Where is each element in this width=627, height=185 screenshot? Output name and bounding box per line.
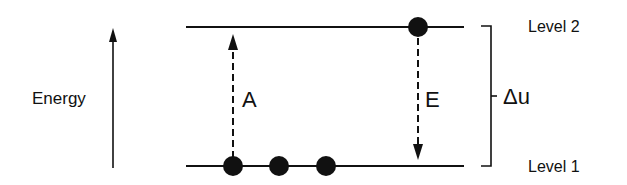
- energy-gap-bracket: [481, 26, 497, 166]
- level-2-label: Level 2: [528, 18, 580, 35]
- level-1-label: Level 1: [528, 158, 580, 175]
- energy-axis-label: Energy: [32, 89, 86, 108]
- absorption-label: A: [242, 87, 257, 112]
- emission-arrow: [413, 38, 423, 160]
- absorption-arrow: [228, 34, 238, 158]
- emission-label: E: [425, 87, 440, 112]
- particle-level-1: [269, 156, 289, 176]
- energy-gap-label: Δu: [503, 84, 530, 109]
- particle-level-1: [316, 156, 336, 176]
- energy-axis-arrow: [109, 28, 117, 168]
- particle-level-1: [223, 156, 243, 176]
- particle-level-2: [408, 17, 428, 37]
- energy-level-diagram: Energy A E Δu Level 2 Level 1: [0, 0, 627, 185]
